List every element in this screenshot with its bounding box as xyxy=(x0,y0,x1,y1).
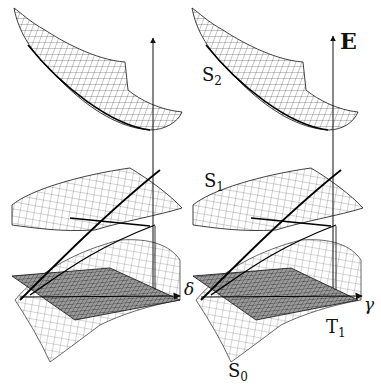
potential-energy-surface-diagram xyxy=(0,0,381,388)
s0-label: S0 xyxy=(228,362,248,383)
t1-label-main: T xyxy=(326,316,338,337)
s2-surface-left xyxy=(14,8,182,130)
t1-label-sub: 1 xyxy=(338,326,346,340)
s2-label-main: S xyxy=(202,64,214,85)
delta-axis-label: δ xyxy=(184,281,194,298)
s2-label: S2 xyxy=(202,66,222,87)
s0-label-main: S xyxy=(228,360,240,381)
s2-label-sub: 2 xyxy=(214,74,222,88)
s0-label-sub: 0 xyxy=(240,370,248,384)
left-panel xyxy=(12,8,182,362)
gamma-axis-label: γ xyxy=(364,296,374,313)
s1-label: S1 xyxy=(204,172,224,193)
t1-label: T1 xyxy=(326,318,346,339)
s1-label-sub: 1 xyxy=(216,180,224,194)
s1-label-main: S xyxy=(204,170,216,191)
energy-axis-label: E xyxy=(340,30,357,52)
